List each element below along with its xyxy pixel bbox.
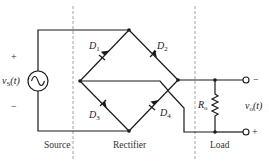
- resistor-bottom-node: [213, 130, 217, 134]
- diode-d3-icon: [100, 100, 107, 109]
- resistor-icon: [212, 80, 218, 132]
- diode-d3-label: D3: [88, 109, 100, 122]
- resistor-top-node: [213, 78, 217, 82]
- output-terminal-minus: [243, 77, 249, 83]
- output-terminal-plus: [243, 129, 249, 135]
- source-plus-label: +: [11, 51, 17, 62]
- ac-source-icon: [28, 71, 48, 91]
- top-node: [127, 28, 131, 32]
- section-label-rectifier: Rectifier: [113, 140, 147, 150]
- source-voltage-label: vS(t): [2, 75, 20, 88]
- diode-d2-label: D2: [156, 40, 168, 53]
- source-minus-label: −: [11, 101, 17, 112]
- bridge-rectifier-diagram: + − vS(t) D1 D2 D3 D4: [0, 0, 269, 162]
- output-voltage-label: vo(t): [245, 100, 263, 113]
- resistor-label: Ro: [197, 99, 208, 112]
- output-plus-label: +: [252, 126, 258, 137]
- diode-d1-label: D1: [88, 40, 100, 53]
- output-minus-label: −: [253, 74, 259, 85]
- section-label-load: Load: [210, 140, 230, 150]
- bottom-node: [127, 129, 131, 133]
- section-label-source: Source: [44, 140, 70, 150]
- diode-d4-label: D4: [159, 107, 171, 120]
- diode-d2-icon: [150, 50, 157, 59]
